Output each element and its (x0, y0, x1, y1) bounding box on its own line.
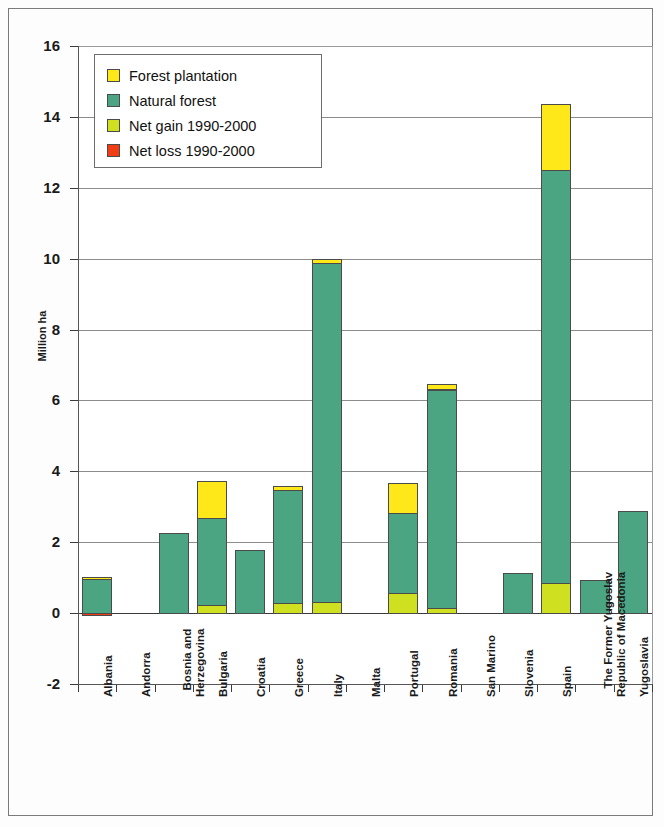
legend-swatch-icon (107, 119, 120, 132)
bar-segment-net-gain[interactable] (197, 605, 227, 614)
legend-item[interactable]: Net loss 1990-2000 (107, 138, 321, 163)
x-tick-mark-9 (422, 685, 423, 692)
bar-segment-forest-plantation[interactable] (427, 384, 457, 390)
y-tick-label-12: 12 (14, 180, 60, 195)
x-axis-label: Italy (332, 674, 344, 697)
y-tick-label-14: 14 (14, 109, 60, 124)
x-tick-mark-7 (346, 685, 347, 692)
bar-segment-natural-forest[interactable] (541, 170, 571, 584)
bar-segment-natural-forest[interactable] (312, 262, 342, 603)
x-tick-mark-12 (537, 685, 538, 692)
legend-swatch-icon (107, 69, 120, 82)
bar-segment-natural-forest[interactable] (159, 533, 189, 614)
legend-item[interactable]: Forest plantation (107, 63, 321, 88)
x-axis-label: Spain (561, 666, 573, 697)
y-tick-label-10: 10 (14, 251, 60, 266)
x-axis-label: The Former YugoslavRepublic of Macedonia (602, 572, 628, 697)
x-axis-label: Yugoslavia (638, 637, 650, 697)
bar-segment-net-gain[interactable] (388, 593, 418, 614)
y-tick-label-0: 0 (14, 605, 60, 620)
x-tick-mark-6 (308, 685, 309, 692)
legend-swatch-icon (107, 144, 120, 157)
legend-label: Natural forest (129, 93, 216, 109)
bar-segment-net-loss[interactable] (82, 613, 112, 616)
legend-item[interactable]: Natural forest (107, 88, 321, 113)
y-axis-title: Million ha (36, 276, 48, 396)
bar-segment-forest-plantation[interactable] (388, 483, 418, 514)
x-tick-mark-13 (575, 685, 576, 692)
bar-segment-natural-forest[interactable] (273, 490, 303, 604)
bar-segment-forest-plantation[interactable] (273, 486, 303, 491)
x-tick-mark-4 (231, 685, 232, 692)
x-tick-mark-10 (461, 685, 462, 692)
bar-segment-natural-forest[interactable] (388, 513, 418, 594)
x-tick-mark-1 (116, 685, 117, 692)
legend-label: Net gain 1990-2000 (129, 118, 256, 134)
x-tick-mark-11 (499, 685, 500, 692)
bar-segment-natural-forest[interactable] (235, 550, 265, 614)
x-tick-mark-end (652, 685, 653, 692)
legend-label: Forest plantation (129, 68, 237, 84)
x-axis-label: Bulgaria (217, 651, 229, 697)
x-axis-label: Slovenia (523, 650, 535, 697)
y-tick-label-16: 16 (14, 38, 60, 53)
bar-segment-net-gain[interactable] (541, 583, 571, 614)
bar-segment-forest-plantation[interactable] (82, 577, 112, 580)
y-tick-label--2: -2 (14, 676, 60, 691)
bar-segment-net-gain[interactable] (312, 602, 342, 614)
x-axis-label: Greece (293, 658, 305, 697)
legend-item[interactable]: Net gain 1990-2000 (107, 113, 321, 138)
bar-segment-natural-forest[interactable] (82, 579, 112, 614)
x-tick-mark-8 (384, 685, 385, 692)
bar-segment-forest-plantation[interactable] (312, 259, 342, 264)
x-tick-mark-0 (78, 685, 79, 692)
x-axis-label: San Marino (485, 635, 497, 697)
x-axis-label: Bosnia andHerzegovina (181, 629, 207, 697)
legend-label: Net loss 1990-2000 (129, 143, 255, 159)
plot-border-top (78, 46, 653, 47)
x-axis-label: Albania (102, 655, 114, 697)
bar-segment-forest-plantation[interactable] (197, 481, 227, 519)
chart-figure: 1614121086420-2 AlbaniaAndorraBosnia and… (0, 0, 664, 827)
y-tick-label-4: 4 (14, 463, 60, 478)
legend-swatch-icon (107, 94, 120, 107)
bar-segment-natural-forest[interactable] (197, 517, 227, 606)
bar-segment-forest-plantation[interactable] (541, 104, 571, 171)
bar-segment-natural-forest[interactable] (503, 573, 533, 614)
x-axis-label: Andorra (140, 652, 152, 697)
plot-border-right (652, 46, 653, 685)
x-axis-label: Croatia (255, 657, 267, 697)
x-tick-mark-5 (269, 685, 270, 692)
bar-segment-net-gain[interactable] (273, 603, 303, 614)
y-axis-line (78, 46, 79, 685)
bar-segment-natural-forest[interactable] (427, 390, 457, 609)
x-axis-label: Romania (447, 648, 459, 697)
x-tick-mark-2 (155, 685, 156, 692)
chart-legend: Forest plantationNatural forestNet gain … (94, 54, 322, 168)
x-axis-label: Malta (370, 668, 382, 697)
y-tick-label-2: 2 (14, 534, 60, 549)
x-axis-label: Portugal (408, 650, 420, 697)
